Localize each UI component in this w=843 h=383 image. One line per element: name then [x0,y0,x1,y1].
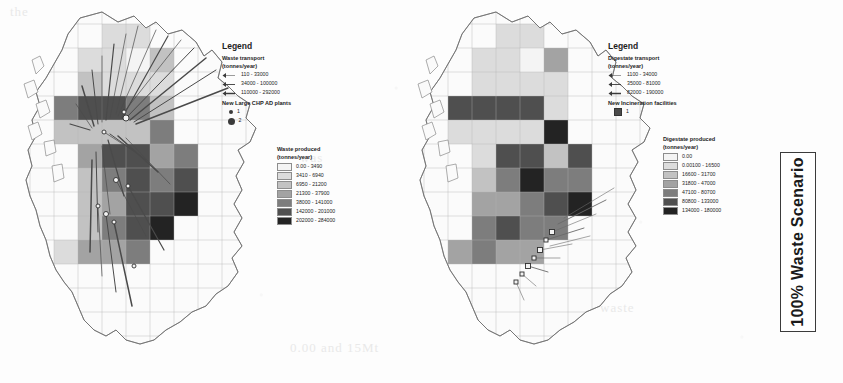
choropleth-cell [472,48,496,72]
legend-class-label: 202000 - 284000 [296,218,335,224]
choropleth-cell [496,192,520,216]
legend-units: (tonnes/year) [608,63,677,69]
flow-line-icon [608,90,623,97]
incineration-facility-marker [526,264,531,269]
choropleth-cell [54,240,78,264]
choropleth-cell [102,72,126,96]
choropleth-cell [472,168,496,192]
choropleth-cell [54,96,78,120]
legend-class-label: 16600 - 31700 [682,172,715,178]
chp-ad-plant-marker [96,204,100,208]
incineration-facility-marker [514,280,518,284]
legend-class-row: 16600 - 31700 [663,171,721,179]
legend-transport-row: 110 - 33000 [222,71,291,79]
legend-swatch [277,172,292,180]
choropleth-cell [496,120,520,144]
choropleth-cell [78,48,102,72]
chp-ad-plant-marker [123,115,129,121]
legend-class-label: 80800 - 133000 [682,199,718,205]
legend-transport-label: 110000 - 292000 [241,90,280,96]
incineration-marker-icon [614,108,622,116]
choropleth-cell [520,120,544,144]
legend-point-row: 2 [222,117,291,125]
choropleth-cell [496,72,520,96]
legend-units: (tonnes/year) [663,144,721,150]
choropleth-cell [544,168,568,192]
legend-swatch [663,198,678,206]
choropleth-cell [496,216,520,240]
legend-class-row: 202000 - 284000 [277,217,335,225]
legend-class-row: 6950 - 21200 [277,181,335,189]
legend-class-label: 0.00 - 3490 [296,164,322,170]
legend-swatch [663,189,678,197]
legend-class-row: 31800 - 47000 [663,180,721,188]
legend-class-row: 80800 - 133000 [663,198,721,206]
legend-transport-label: 35000 - 81000 [627,81,660,87]
chp-ad-plant-marker [104,212,109,217]
scenario-label-text: 100% Waste Scenario [789,157,807,327]
choropleth-cell [150,192,174,216]
ad-plant-marker-icon [229,110,233,114]
legend-swatch [277,163,292,171]
chp-ad-plant-marker [126,184,130,188]
legend-swatch [663,171,678,179]
legend-title: Legend [608,42,677,52]
legend-class-label: 142000 - 201000 [296,209,335,215]
choropleth-cell [544,120,568,144]
legend-class-label: 38000 - 141000 [296,200,332,206]
choropleth-cell [150,216,174,240]
chp-ad-plant-marker [114,178,119,183]
legend-class-row: 134000 - 180000 [663,207,721,215]
choropleth-cell [448,96,472,120]
legend-swatch [663,207,678,215]
choropleth-cell [496,240,520,264]
chp-ad-plant-marker [102,130,106,134]
legend-swatch [277,208,292,216]
choropleth-cell [150,48,174,72]
choropleth-cell [174,144,198,168]
choropleth-cell [544,192,568,216]
chp-ad-plant-marker [132,264,136,268]
choropleth-cell [126,96,150,120]
choropleth-cell [448,120,472,144]
choropleth-cell [102,144,126,168]
legend-units: (tonnes/year) [277,154,335,160]
choropleth-cell [544,48,568,72]
legend-class-label: 6950 - 21200 [296,182,327,188]
legend-swatch [663,153,678,161]
choropleth-cell [472,216,496,240]
legend-subtitle: Digestate produced [663,136,721,142]
choropleth-cell [496,24,520,48]
choropleth-cell [520,168,544,192]
choropleth-cell [520,216,544,240]
legend-transport-row: 1100 - 34000 [608,71,677,79]
legend-class-label: 0.00 [682,154,692,160]
choropleth-cell [472,144,496,168]
choropleth-cell [544,96,568,120]
legend-class-row: 0.00100 - 16500 [663,162,721,170]
digestate-transport-legend: Legend Digestate transport (tonnes/year)… [608,42,677,117]
incineration-facility-marker [520,272,524,276]
legend-class-row: 142000 - 201000 [277,208,335,216]
choropleth-cell [472,192,496,216]
legend-subtitle: Waste produced [277,146,335,152]
choropleth-cell [520,48,544,72]
ad-plant-marker-icon [228,118,235,125]
flow-line-icon [608,72,623,79]
legend-subtitle: Waste transport [222,55,291,61]
choropleth-cell [54,120,78,144]
legend-class-label: 21300 - 37900 [296,191,329,197]
legend-class-row: 38000 - 141000 [277,199,335,207]
waste-produced-legend: Waste produced (tonnes/year) 0.00 - 3490… [277,146,335,226]
legend-point-row: 1 [608,108,677,116]
choropleth-cell [544,72,568,96]
choropleth-cell [78,168,102,192]
choropleth-cell [472,96,496,120]
choropleth-cell [568,192,592,216]
legend-class-row: 47100 - 80700 [663,189,721,197]
choropleth-cell [448,240,472,264]
choropleth-cell [150,144,174,168]
incineration-facility-marker [538,248,543,253]
flow-line-icon [608,81,623,88]
legend-swatch [277,190,292,198]
